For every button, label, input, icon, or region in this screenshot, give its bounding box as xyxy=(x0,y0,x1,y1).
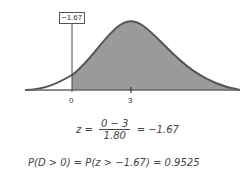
z-marker-label: −1.67 xyxy=(59,12,85,24)
shaded-region xyxy=(72,21,240,90)
z-rhs: = −1.67 xyxy=(137,124,179,135)
tick-label-3: 3 xyxy=(128,96,132,105)
probability-equation: P(D > 0) = P(z > −1.67) = 0.9525 xyxy=(28,157,200,168)
z-lhs: z = xyxy=(76,124,93,135)
z-numerator: 0 − 3 xyxy=(99,118,130,130)
z-fraction: 0 − 3 1.80 xyxy=(99,118,130,141)
z-equation: z = 0 − 3 1.80 = −1.67 xyxy=(76,118,179,141)
tick-label-0: 0 xyxy=(69,96,73,105)
z-denominator: 1.80 xyxy=(99,130,130,141)
normal-curve-plot xyxy=(0,0,250,100)
